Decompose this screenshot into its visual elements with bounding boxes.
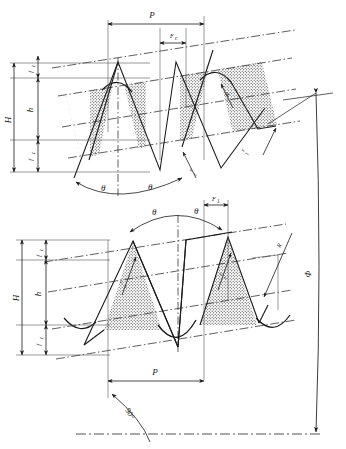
upper-total-height-label: H [3, 116, 13, 124]
drawing-canvas: P F c H f c h f c [0, 0, 346, 449]
lower-figure: F 1 θ θ H f c h f c [11, 196, 296, 442]
upper-tooth-radius-leader: r 1 [240, 128, 276, 156]
diameter-symbol-label: Φ [303, 270, 313, 277]
upper-flank-top-label: F [169, 33, 174, 39]
upper-figure: P F c H f c h f c [3, 10, 300, 196]
upper-tooth-radius-sub: 1 [244, 151, 251, 156]
lower-guide-lines [44, 224, 296, 359]
lower-theta-right: θ [194, 206, 199, 216]
upper-total-height-dimension: H [3, 63, 14, 172]
upper-fc-bottom-sub: c [30, 151, 36, 154]
lower-tooth-profile [64, 232, 290, 347]
lower-pitch-label: P [151, 367, 158, 377]
lower-total-height-label: H [11, 294, 21, 302]
lower-fc-bottom-dimension: f c [36, 325, 46, 355]
lower-fc-top-label: f [36, 254, 42, 257]
lower-lead-angle-label: 90° [123, 407, 136, 421]
upper-root-radius-leader: r c [183, 152, 198, 178]
lower-fc-bottom-label: f [36, 343, 42, 346]
upper-fc-top-label: f [28, 70, 34, 73]
engineering-drawing-svg: P F c H f c h f c [0, 0, 346, 449]
upper-fc-bottom-dimension: f c [28, 140, 38, 172]
lower-flank-dimension: F 1 [204, 196, 228, 205]
lower-working-height-label: h [33, 291, 43, 296]
lower-flank-sub: 1 [217, 198, 220, 204]
upper-stipple-band [50, 40, 295, 180]
lower-total-height-dimension: H [11, 240, 22, 355]
lower-fc-top-sub: c [38, 248, 44, 251]
lower-theta-left: θ [152, 207, 157, 217]
lower-crest-radius-label: R [275, 242, 283, 249]
upper-working-height-label: h [25, 107, 35, 112]
lower-flank-label: F [211, 196, 216, 202]
upper-theta-left: θ [101, 183, 106, 193]
upper-theta-right: θ [148, 182, 153, 192]
upper-flank-top-sub: c [175, 35, 178, 41]
lower-fc-top-dimension: f c [36, 240, 46, 260]
lower-lead-angle: 90° [112, 394, 150, 442]
upper-fc-bottom-label: f [28, 158, 34, 161]
upper-flank-angle: θ θ [76, 178, 182, 194]
lower-working-height-dimension: h [33, 260, 46, 325]
upper-fc-top-dimension: f c [28, 56, 38, 78]
upper-pitch-label: P [148, 10, 155, 20]
upper-pitch-dimension: P [108, 10, 204, 24]
lower-pitch-dimension: P [108, 367, 204, 381]
lower-fc-bottom-sub: c [38, 336, 44, 339]
upper-flank-top-dimension: F c [160, 33, 186, 43]
upper-fc-top-sub: c [30, 64, 36, 67]
upper-root-radius-sub: c [192, 171, 199, 176]
lower-flank-angle: θ θ [130, 206, 222, 232]
upper-working-height-dimension: h [25, 78, 38, 140]
